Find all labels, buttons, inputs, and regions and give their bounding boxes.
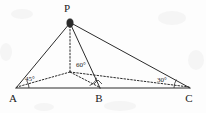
point-p-marker	[67, 19, 73, 27]
vertex-label-a: A	[9, 92, 17, 104]
vertex-label-c: C	[185, 92, 192, 104]
geometry-diagram: P A B C 45° 60° 30°	[0, 0, 206, 113]
angle-label-30: 30°	[157, 76, 167, 84]
angle-label-45: 45°	[25, 75, 35, 83]
angle-label-60: 60°	[76, 61, 86, 69]
vertex-label-p: P	[64, 2, 70, 14]
geometry-figure-container: P A B C 45° 60° 30°	[0, 0, 206, 113]
vertex-label-b: B	[95, 92, 102, 104]
